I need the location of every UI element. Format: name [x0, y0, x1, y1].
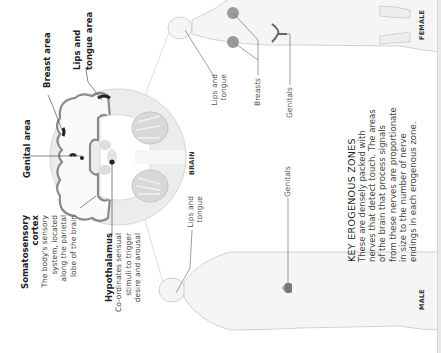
female-genitals-label: Genitals	[285, 87, 294, 118]
lips-tongue-area-label-2: tongue area	[84, 12, 94, 70]
somatosensory-desc-2: system, located	[50, 215, 60, 310]
male-lips-label-1: Lips and	[186, 196, 195, 230]
female-lips-label: Lips and tongue	[210, 74, 228, 108]
page-edge	[437, 0, 441, 353]
female-breasts-label: Breasts	[253, 78, 262, 106]
breast-area-label: Breast area	[42, 32, 52, 88]
male-lips-label: Lips and tongue	[186, 196, 204, 230]
key-body-line-4: from these nerves are proportionate	[388, 107, 398, 262]
key-body-line-5: in size to the number of nerve	[398, 107, 408, 262]
somatosensory-desc-3: along the parietal	[59, 215, 69, 310]
female-body	[168, 0, 440, 52]
somatosensory-title-2: cortex	[30, 215, 40, 310]
hypothalamus-title: Hypothalamus	[104, 233, 114, 323]
key-title: KEY EROGENOUS ZONES	[346, 107, 357, 262]
female-lips-label-2: tongue	[219, 74, 228, 108]
male-body	[159, 252, 440, 330]
genital-area-label: Genital area	[22, 119, 32, 178]
female-caption: FEMALE	[418, 10, 426, 40]
somatosensory-desc-4: lobe of the brain	[69, 215, 79, 310]
brain-cross-section	[50, 89, 186, 225]
hypothalamus-desc-3: desire and arousal	[133, 233, 143, 323]
somatosensory-desc-1: The body's sensory	[40, 215, 50, 310]
key-body-line-3: of the brain that process signals	[377, 107, 387, 262]
hypothalamus-desc-1: Co-ordinates sensual	[114, 233, 124, 323]
key-body-line-2: nerves that detect touch. The areas	[367, 107, 377, 262]
male-lips-label-2: tongue	[195, 196, 204, 230]
male-genitals-label: Genitals	[283, 166, 292, 197]
lips-tongue-area-label-1: Lips and	[72, 30, 82, 70]
brain-caption: BRAIN	[188, 151, 196, 175]
key-body-line-1: These are densely packed with	[357, 107, 367, 262]
key-body-line-6: endings in each erogenous zone.	[408, 107, 418, 262]
female-lips-label-1: Lips and	[210, 74, 219, 108]
somatosensory-title-1: Somatosensory	[20, 215, 30, 310]
somatosensory-block: Somatosensory cortex The body's sensory …	[20, 215, 78, 310]
male-caption: MALE	[418, 289, 426, 310]
key-erogenous-zones: KEY EROGENOUS ZONES These are densely pa…	[346, 107, 418, 262]
hypothalamus-block: Hypothalamus Co-ordinates sensual stimul…	[104, 233, 143, 323]
hypothalamus-desc-2: stimuli to trigger	[124, 233, 134, 323]
